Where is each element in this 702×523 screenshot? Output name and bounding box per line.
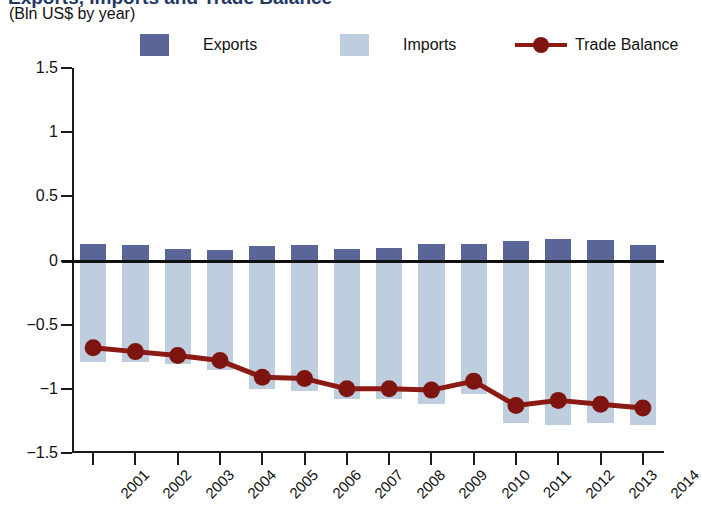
legend-label-imports: Imports xyxy=(403,36,456,54)
y-axis-tick-label: −1 xyxy=(40,380,58,398)
x-axis-ticks xyxy=(72,451,664,465)
trade-balance-point xyxy=(423,382,440,399)
trade-balance-point xyxy=(254,369,271,386)
y-axis-tick-label: −1.5 xyxy=(26,444,58,462)
x-axis-tick-label: 2009 xyxy=(455,466,491,502)
trade-balance-point xyxy=(465,373,482,390)
zero-baseline xyxy=(62,260,664,263)
y-axis-tick-label: 0.5 xyxy=(36,187,58,205)
x-axis-tick-label: 2001 xyxy=(117,466,153,502)
trade-balance-point xyxy=(127,343,144,360)
trade-balance-point xyxy=(338,380,355,397)
x-axis-tick-label: 2006 xyxy=(328,466,364,502)
trade-balance-line-marker-icon xyxy=(515,34,567,56)
x-axis-tick xyxy=(473,451,475,465)
x-axis-tick xyxy=(430,451,432,465)
y-axis-labels: 1.510.50−0.5−1−1.5 xyxy=(0,68,58,453)
y-axis-tick xyxy=(61,388,72,390)
legend-item-exports[interactable]: Exports xyxy=(140,32,257,58)
x-axis-tick xyxy=(515,451,517,465)
x-axis-tick xyxy=(177,451,179,465)
legend-label-trade-balance: Trade Balance xyxy=(575,36,678,54)
x-axis-tick-label: 2005 xyxy=(286,466,322,502)
legend-label-exports: Exports xyxy=(203,36,257,54)
x-axis-labels: 2001200220032004200520062007200820092010… xyxy=(72,466,672,522)
y-axis-tick xyxy=(61,131,72,133)
x-axis-tick xyxy=(92,451,94,465)
trade-balance-point xyxy=(592,396,609,413)
trade-balance-point xyxy=(212,352,229,369)
chart-subtitle: (Bln US$ by year) xyxy=(9,5,135,23)
imports-color-swatch xyxy=(340,34,369,56)
y-axis-tick-label: 0 xyxy=(49,252,58,270)
trade-balance-point xyxy=(169,347,186,364)
x-axis-tick xyxy=(134,451,136,465)
legend-item-imports[interactable]: Imports xyxy=(340,32,456,58)
x-axis-tick xyxy=(304,451,306,465)
y-axis-tick xyxy=(61,324,72,326)
trade-balance-point xyxy=(296,370,313,387)
trade-balance-point xyxy=(85,339,102,356)
x-axis-tick xyxy=(346,451,348,465)
y-axis-tick xyxy=(61,195,72,197)
x-axis-tick-label: 2007 xyxy=(371,466,407,502)
chart-legend: Exports Imports Trade Balance xyxy=(140,32,665,58)
trade-balance-point xyxy=(381,380,398,397)
trade-balance-point xyxy=(550,392,567,409)
x-axis-tick xyxy=(557,451,559,465)
exports-color-swatch xyxy=(140,34,169,56)
y-axis-tick-label: 1 xyxy=(49,123,58,141)
x-axis-tick-label: 2013 xyxy=(624,466,660,502)
x-axis-tick-label: 2004 xyxy=(244,466,280,502)
trade-balance-point xyxy=(508,397,525,414)
x-axis-tick xyxy=(642,451,644,465)
x-axis-tick xyxy=(219,451,221,465)
x-axis-tick-label: 2010 xyxy=(497,466,533,502)
x-axis-tick-label: 2014 xyxy=(667,466,702,502)
x-axis-tick-label: 2012 xyxy=(582,466,618,502)
y-axis-tick xyxy=(61,452,72,454)
plot-area xyxy=(72,68,664,453)
y-axis-tick-label: 1.5 xyxy=(36,59,58,77)
x-axis-tick-label: 2008 xyxy=(413,466,449,502)
x-axis-tick xyxy=(600,451,602,465)
x-axis-tick-label: 2002 xyxy=(159,466,195,502)
y-axis-tick-label: −0.5 xyxy=(26,316,58,334)
x-axis-tick xyxy=(261,451,263,465)
x-axis-tick xyxy=(388,451,390,465)
y-axis-tick xyxy=(61,67,72,69)
trade-balance-point xyxy=(634,400,651,417)
x-axis-tick-label: 2011 xyxy=(539,466,574,501)
legend-item-trade-balance[interactable]: Trade Balance xyxy=(515,32,678,58)
x-axis-tick-label: 2003 xyxy=(201,466,237,502)
